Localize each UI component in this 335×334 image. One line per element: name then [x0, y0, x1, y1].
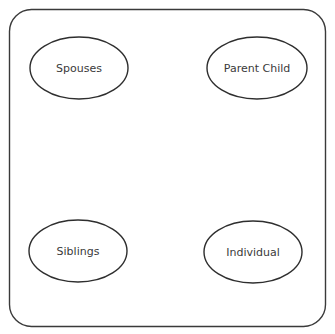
node-individual: Individual: [204, 221, 302, 283]
node-spouses: Spouses: [30, 37, 128, 99]
node-siblings: Siblings: [29, 220, 127, 282]
node-siblings-label: Siblings: [57, 245, 100, 258]
node-spouses-label: Spouses: [56, 62, 102, 75]
relationship-diagram: Spouses Parent Child Siblings Individual: [0, 0, 335, 334]
node-parent-child: Parent Child: [207, 37, 307, 99]
node-individual-label: Individual: [226, 246, 280, 259]
node-parent-child-label: Parent Child: [224, 62, 290, 75]
